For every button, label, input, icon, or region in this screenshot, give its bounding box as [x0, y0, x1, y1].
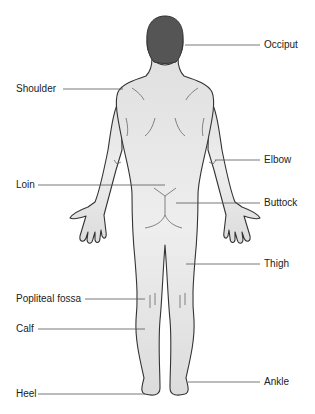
body-figure [70, 58, 260, 395]
label-thigh: Thigh [264, 258, 289, 270]
label-occiput: Occiput [264, 39, 298, 51]
head [147, 16, 183, 65]
label-loin: Loin [16, 179, 35, 191]
label-buttock: Buttock [264, 197, 297, 209]
label-calf: Calf [16, 323, 34, 335]
right-arm [208, 96, 260, 243]
label-heel: Heel [16, 388, 37, 400]
hair [147, 16, 183, 64]
left-arm [70, 96, 122, 243]
torso-legs [116, 58, 213, 395]
label-shoulder: Shoulder [16, 83, 56, 95]
label-popliteal-fossa: Popliteal fossa [16, 293, 81, 305]
label-elbow: Elbow [264, 154, 291, 166]
label-ankle: Ankle [264, 376, 289, 388]
